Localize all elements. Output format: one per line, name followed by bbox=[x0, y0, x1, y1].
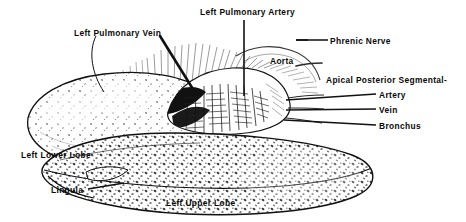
label-vein: Vein bbox=[379, 106, 398, 114]
label-left-pulmonary-vein: Left Pulmonary Vein bbox=[74, 29, 161, 37]
leader-artery bbox=[286, 94, 376, 100]
label-left-lower-lobe: Left Lower Lobe bbox=[21, 151, 91, 159]
label-left-upper-lobe: Left Upper Lobe bbox=[166, 199, 235, 207]
label-lingula: Lingula bbox=[51, 186, 83, 194]
hilum bbox=[166, 68, 324, 134]
leader-vein bbox=[286, 109, 376, 110]
label-aorta: Aorta bbox=[270, 57, 294, 65]
label-apical-posterior-segmental: Apical Posterior Segmental- bbox=[326, 76, 447, 84]
label-left-pulmonary-artery: Left Pulmonary Artery bbox=[200, 8, 295, 16]
anatomical-figure: Left Pulmonary Vein Left Pulmonary Arter… bbox=[0, 0, 466, 222]
label-bronchus: Bronchus bbox=[379, 122, 421, 130]
leader-bronchus bbox=[284, 120, 376, 125]
label-artery: Artery bbox=[379, 91, 406, 99]
label-phrenic-nerve: Phrenic Nerve bbox=[330, 37, 391, 45]
